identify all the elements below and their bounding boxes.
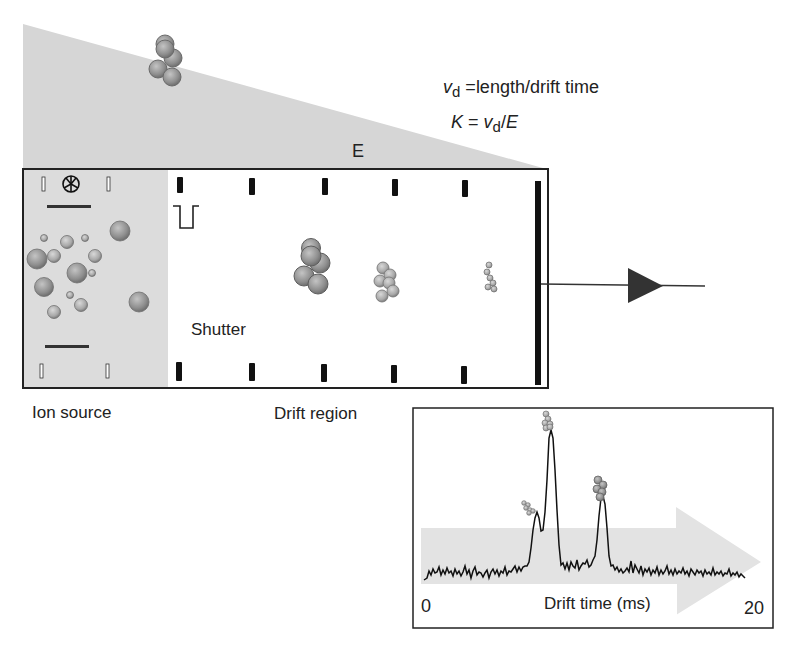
electric-field-label: E [352, 141, 364, 162]
shutter-pulse-icon [173, 206, 199, 228]
equals-sign: = [465, 77, 476, 97]
detector-plate [535, 181, 541, 385]
mobility-equation: K = vd/E [451, 112, 518, 135]
x-axis-max-label: 20 [744, 598, 764, 619]
symbol-k: K [451, 112, 463, 132]
medium-ion-cluster-icon [374, 262, 399, 302]
subscript-d: d [493, 118, 501, 135]
ims-schematic [0, 0, 801, 653]
x-axis-title: Drift time (ms) [544, 594, 651, 614]
drift-electrodes-top [177, 177, 468, 197]
amplifier-triangle-icon [628, 268, 663, 303]
drift-electrodes-bottom [176, 362, 467, 384]
shutter-label: Shutter [191, 320, 246, 340]
ion-source-lower-plate [45, 345, 89, 348]
drift-region-label: Drift region [274, 404, 357, 424]
drift-velocity-equation: vd =length/drift time [443, 77, 599, 100]
symbol-v: v [484, 112, 493, 132]
ion-source-label: Ion source [32, 403, 111, 423]
symbol-v: v [443, 77, 452, 97]
x-axis-min-label: 0 [421, 596, 431, 617]
small-ion-cluster-icon [484, 262, 497, 292]
signal-wire [541, 284, 705, 286]
ion-source-upper-plate [47, 205, 91, 208]
subscript-d: d [452, 83, 460, 100]
drift-velocity-rhs: length/drift time [476, 77, 599, 97]
equals-sign: = [463, 112, 484, 132]
symbol-e: E [506, 112, 518, 132]
large-ion-cluster-icon [294, 239, 330, 295]
